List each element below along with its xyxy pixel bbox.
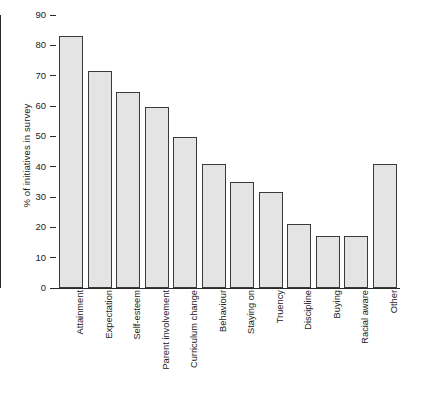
y-tick-label-wrap: 80 — [0, 40, 46, 50]
x-axis-tick-label: Attainment — [75, 290, 85, 400]
y-tick-label-wrap: 90 — [0, 10, 46, 20]
y-tick-label-wrap: 10 — [0, 253, 46, 263]
y-tick-mark — [50, 15, 56, 16]
x-axis-tick-label-text: Buying — [332, 290, 342, 400]
y-tick-label-wrap: 40 — [0, 162, 46, 172]
y-tick-label-wrap: 60 — [0, 101, 46, 111]
x-axis-tick-label: Expectation — [104, 290, 114, 400]
x-axis-tick-label-text: Curriculum change — [189, 290, 199, 400]
x-axis-tick-label-text: Parent involvement — [161, 290, 171, 400]
x-axis-tick-label-text: Attainment — [75, 290, 85, 400]
x-axis-tick-label-text: Other — [389, 290, 399, 400]
x-axis-tick-label: Self-esteem — [132, 290, 142, 400]
y-tick-label: 30 — [24, 192, 46, 202]
y-tick-label: 40 — [24, 162, 46, 172]
x-axis-tick-label-text: Discipline — [303, 290, 313, 400]
bar — [173, 137, 197, 288]
y-tick-mark — [50, 166, 56, 167]
x-axis-tick-label: Parent involvement — [161, 290, 171, 400]
x-axis-tick-label: Behaviour — [218, 290, 228, 400]
y-tick-mark — [50, 75, 56, 76]
bar — [116, 92, 140, 288]
bar — [287, 224, 311, 288]
y-tick-mark — [50, 106, 56, 107]
bar — [88, 71, 112, 288]
bar — [145, 107, 169, 288]
y-tick-label: 90 — [24, 10, 46, 20]
y-tick-label-wrap: 20 — [0, 222, 46, 232]
bar — [373, 164, 397, 288]
y-tick-label-wrap: 70 — [0, 71, 46, 81]
y-tick-mark — [50, 288, 56, 289]
y-tick-label: 0 — [24, 283, 46, 293]
y-tick-mark — [50, 257, 56, 258]
y-axis-line — [0, 15, 1, 288]
x-axis-tick-label: Truency — [275, 290, 285, 400]
x-axis-tick-label-text: Staying on — [246, 290, 256, 400]
y-tick-label: 20 — [24, 222, 46, 232]
x-axis-tick-label: Discipline — [303, 290, 313, 400]
y-tick-mark — [50, 197, 56, 198]
bar — [259, 192, 283, 288]
x-axis-tick-label: Staying on — [246, 290, 256, 400]
y-tick-label-wrap: 30 — [0, 192, 46, 202]
y-tick-label: 60 — [24, 101, 46, 111]
bar — [344, 236, 368, 288]
bar-chart: % of initiatives in survey 0102030405060… — [0, 0, 421, 402]
y-axis-title: % of initiatives in survey — [21, 76, 32, 236]
bar — [59, 36, 83, 288]
y-tick-label-wrap: 50 — [0, 131, 46, 141]
x-axis-tick-label: Racial aware — [360, 290, 370, 400]
x-axis-tick-label-text: Behaviour — [218, 290, 228, 400]
y-tick-label: 50 — [24, 131, 46, 141]
x-axis-tick-label-text: Racial aware — [360, 290, 370, 400]
bars-group — [57, 15, 399, 288]
x-axis-tick-label-text: Truency — [275, 290, 285, 400]
y-tick-mark — [50, 136, 56, 137]
x-axis-labels: AttainmentExpectationSelf-esteemParent i… — [57, 292, 399, 402]
y-tick-mark — [50, 45, 56, 46]
x-axis-tick-label: Buying — [332, 290, 342, 400]
x-axis-tick-label-text: Expectation — [104, 290, 114, 400]
bar — [316, 236, 340, 288]
y-tick-label: 70 — [24, 71, 46, 81]
y-tick-label: 80 — [24, 40, 46, 50]
x-axis-tick-label-text: Self-esteem — [132, 290, 142, 400]
x-axis-tick-label: Other — [389, 290, 399, 400]
x-axis-tick-label: Curriculum change — [189, 290, 199, 400]
y-tick-label: 10 — [24, 253, 46, 263]
y-tick-mark — [50, 227, 56, 228]
bar — [230, 182, 254, 288]
bar — [202, 164, 226, 288]
y-tick-label-wrap: 0 — [0, 283, 46, 293]
